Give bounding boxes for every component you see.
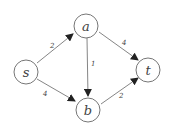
svg-text:s: s (23, 65, 30, 80)
edge-a-t (99, 32, 138, 60)
edge-b-t (101, 78, 138, 104)
svg-text:t: t (145, 63, 151, 78)
svg-text:a: a (82, 19, 90, 34)
node-b: b (76, 98, 100, 122)
edge-a-b (87, 38, 88, 96)
edge-weight-s-b: 4 (42, 90, 47, 98)
edge-weight-s-a: 2 (49, 42, 55, 50)
node-s: s (14, 60, 38, 84)
edge-weight-a-b: 1 (91, 60, 95, 68)
edge-weight-b-t: 2 (118, 92, 124, 100)
node-t: t (136, 58, 160, 82)
graph-diagram: 2 4 1 4 2 s a b t (0, 0, 174, 131)
node-a: a (74, 14, 98, 38)
svg-text:b: b (84, 103, 92, 118)
edge-weight-a-t: 4 (121, 39, 126, 47)
edge-s-a (37, 34, 73, 63)
